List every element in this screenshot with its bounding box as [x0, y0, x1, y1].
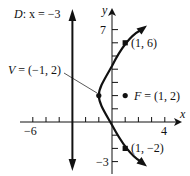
directrix-label: D: x = −3	[13, 7, 61, 21]
focus-point	[123, 93, 128, 98]
y-axis-label: y	[101, 3, 108, 17]
parabola-diagram: D: x = −3 V = (−1, 2) F = (1, 2) (1, 6) …	[0, 0, 190, 176]
vertex-label: V = (−1, 2)	[8, 63, 61, 77]
vertex-point	[96, 93, 101, 98]
x-axis	[20, 117, 180, 122]
directrix-line	[69, 9, 77, 171]
y-tick-label-7: 7	[100, 23, 106, 37]
curve-arrow-top-icon	[137, 26, 148, 35]
x-axis-ticks	[33, 117, 165, 122]
x-tick-label-4: 4	[161, 124, 167, 138]
point-1-6	[123, 40, 128, 45]
x-axis-label: x	[179, 107, 186, 121]
y-axis-ticks	[112, 30, 118, 162]
vertex-leader-line	[64, 73, 97, 93]
point-1-neg2	[123, 146, 128, 151]
y-axis	[112, 10, 118, 174]
arrow-down-icon	[69, 159, 77, 171]
y-tick-label-neg3: −3	[96, 155, 109, 169]
point-label-1-6: (1, 6)	[131, 36, 157, 50]
arrow-up-icon	[69, 9, 77, 21]
point-label-1-neg2: (1, −2)	[131, 141, 164, 155]
focus-label: F = (1, 2)	[133, 89, 180, 103]
x-tick-label-neg6: −6	[24, 124, 37, 138]
